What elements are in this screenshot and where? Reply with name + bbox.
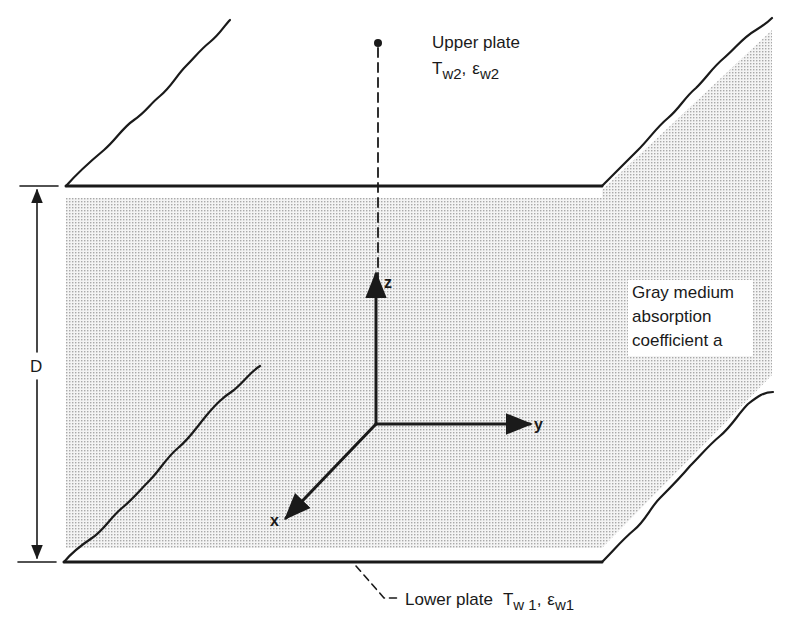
y-axis-label: y	[534, 416, 543, 433]
dimension-d: D	[18, 186, 58, 562]
dimension-label: D	[30, 357, 42, 376]
medium-label-line3: coefficient a	[632, 331, 723, 350]
upper-temp-symbol: T	[432, 59, 442, 78]
lower-emissivity-subscript: w1	[554, 596, 574, 613]
parallel-plate-diagram: D Upper plate Tw2,εw2 Gray medium absorp…	[0, 0, 792, 642]
lower-separator: ,	[537, 590, 542, 609]
lower-plate-properties: Lower plateTw 1,εw1	[405, 590, 574, 613]
upper-temp-subscript: w2	[441, 65, 461, 82]
lower-plate-leader	[356, 566, 400, 598]
lower-plate-title: Lower plate	[405, 590, 493, 609]
z-axis-label: z	[384, 274, 392, 291]
upper-plate-title: Upper plate	[432, 33, 520, 52]
medium-label-line1: Gray medium	[632, 283, 734, 302]
upper-separator: ,	[462, 59, 467, 78]
upper-emissivity-subscript: w2	[479, 65, 499, 82]
upper-plate-properties: Tw2,εw2	[432, 59, 499, 82]
lower-temp-symbol: T	[503, 590, 513, 609]
leader-dot-icon	[374, 39, 382, 47]
medium-label-line2: absorption	[632, 307, 711, 326]
lower-temp-subscript: w 1	[512, 596, 536, 613]
x-axis-label: x	[270, 512, 279, 529]
